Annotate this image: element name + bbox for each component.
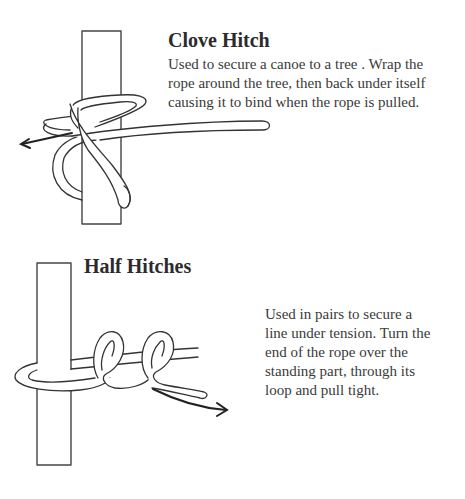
- tree-pole: [37, 263, 71, 465]
- pull-arrow-icon: [21, 133, 72, 148]
- description-line: causing it to bind when the rope is pull…: [168, 93, 425, 112]
- description-line: line under tension. Turn the: [265, 324, 430, 343]
- description-line: end of the rope over the: [265, 343, 430, 362]
- clove-hitch-description: Used to secure a canoe to a tree . Wrap …: [168, 55, 425, 112]
- clove-hitch-panel: Clove Hitch Used to secure a canoe to a …: [0, 0, 465, 250]
- half-hitches-panel: Half Hitches Used in pairs to secure a l…: [0, 250, 465, 499]
- description-line: loop and pull tight.: [265, 381, 430, 400]
- clove-hitch-title: Clove Hitch: [168, 29, 270, 52]
- half-hitches-description: Used in pairs to secure a line under ten…: [265, 305, 430, 400]
- description-line: standing part, through its: [265, 362, 430, 381]
- tree-pole: [82, 31, 121, 224]
- description-line: Used to secure a canoe to a tree . Wrap …: [168, 55, 425, 74]
- description-line: Used in pairs to secure a: [265, 305, 430, 324]
- half-hitches-title: Half Hitches: [84, 255, 191, 278]
- description-line: rope around the tree, then back under it…: [168, 74, 425, 93]
